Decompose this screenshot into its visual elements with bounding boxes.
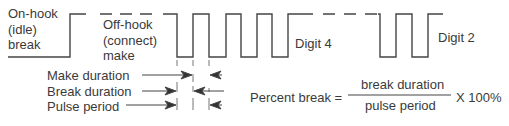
digit-2-label: Digit 2 (438, 30, 475, 45)
on-hook-line-1: On-hook (8, 6, 58, 22)
off-hook-line-1: Off-hook (103, 17, 157, 33)
on-hook-line-3: break (8, 37, 58, 53)
digit-2-pulses (378, 14, 443, 57)
pulse-period-label: Pulse period (47, 99, 119, 114)
formula-denominator: pulse period (365, 98, 436, 113)
break-duration-label: Break duration (47, 84, 132, 99)
formula-multiplier: X 100% (456, 90, 502, 105)
on-hook-label: On-hook (idle) break (8, 6, 58, 53)
off-hook-label: Off-hook (connect) make (103, 17, 157, 64)
make-duration-label: Make duration (47, 68, 129, 83)
formula-lhs: Percent break = (250, 90, 342, 105)
formula-numerator: break duration (361, 77, 444, 92)
off-hook-line-3: make (103, 48, 157, 64)
off-hook-line-2: (connect) (103, 33, 157, 49)
digit-4-label: Digit 4 (295, 36, 332, 51)
on-hook-line-2: (idle) (8, 22, 58, 38)
digit-4-pulses (163, 14, 313, 57)
